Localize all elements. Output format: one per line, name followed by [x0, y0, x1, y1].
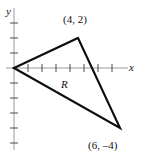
y-axis-label: y: [6, 6, 11, 17]
vertex-label-bottom: (6, –4): [88, 140, 117, 151]
region-label: R: [61, 79, 68, 90]
x-axis-label: x: [129, 62, 134, 73]
vertex-label-top: (4, 2): [63, 14, 87, 25]
coordinate-plane-figure: (4, 2) (6, –4) R x y: [0, 0, 144, 155]
